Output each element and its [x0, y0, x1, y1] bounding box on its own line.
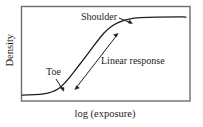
y-axis-label: Density [5, 23, 16, 77]
characteristic-curve-figure: Density log (exposure) Toe Shoulder Line… [0, 0, 203, 127]
annotation-label-shoulder: Shoulder [81, 12, 117, 22]
annotation-label-linear-response: Linear response [101, 56, 165, 66]
x-axis-label: log (exposure) [57, 109, 153, 120]
annotation-label-toe: Toe [46, 67, 61, 77]
